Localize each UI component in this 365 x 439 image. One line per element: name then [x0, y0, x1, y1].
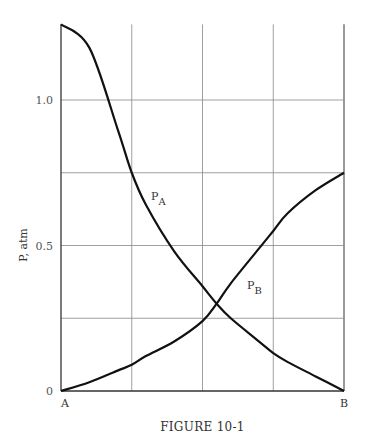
- series-label-p-b: PB: [247, 279, 262, 296]
- series-label-p-a: PA: [151, 190, 166, 207]
- y-tick-label: 0.5: [36, 240, 54, 253]
- x-label-a: A: [60, 397, 70, 410]
- x-label-b: B: [340, 397, 348, 410]
- y-axis-label: P, atm: [17, 228, 30, 262]
- figure-caption: FIGURE 10-1: [0, 420, 365, 434]
- y-tick-label: 0: [46, 385, 53, 398]
- y-tick-label: 1.0: [36, 94, 54, 107]
- labels: 00.51.0ABP, atmPAPB: [17, 94, 348, 410]
- gridlines: [61, 24, 344, 391]
- chart: 00.51.0ABP, atmPAPB: [0, 0, 365, 439]
